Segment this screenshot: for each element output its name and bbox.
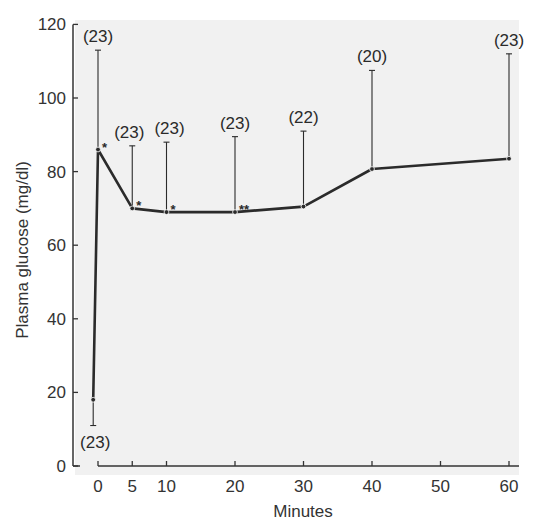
- data-point: [507, 156, 512, 161]
- y-tick-label: 80: [47, 163, 66, 182]
- sample-size-label: (23): [494, 31, 524, 50]
- data-point: [164, 210, 169, 215]
- x-tick-label: 40: [363, 477, 382, 496]
- sample-size-label: (23): [220, 114, 250, 133]
- sample-size-label: (23): [114, 123, 144, 142]
- sample-size-label: (20): [357, 47, 387, 66]
- sample-size-label: (23): [83, 27, 113, 46]
- x-tick-label: 10: [157, 477, 176, 496]
- data-point: [301, 204, 306, 209]
- data-point: [370, 167, 375, 172]
- data-point: [91, 397, 96, 402]
- data-point: [96, 147, 101, 152]
- x-tick-label: 0: [93, 477, 102, 496]
- x-tick-label: 5: [128, 477, 137, 496]
- y-tick-label: 60: [47, 236, 66, 255]
- y-tick-label: 120: [38, 15, 66, 34]
- x-axis-title: Minutes: [273, 502, 333, 521]
- x-tick-label: 50: [431, 477, 450, 496]
- x-axis: 05102030405060: [73, 461, 519, 496]
- y-axis: 020406080100120: [38, 15, 78, 476]
- sample-size-label: (22): [288, 108, 318, 127]
- y-tick-label: 40: [47, 310, 66, 329]
- y-tick-label: 20: [47, 383, 66, 402]
- sample-size-label: (23): [80, 433, 110, 452]
- y-tick-label: 100: [38, 89, 66, 108]
- y-axis-title: Plasma glucose (mg/dl): [13, 161, 32, 339]
- data-point: [130, 206, 135, 211]
- x-tick-label: 60: [500, 477, 519, 496]
- x-tick-label: 30: [294, 477, 313, 496]
- plot-background: [75, 20, 519, 475]
- x-tick-label: 20: [226, 477, 245, 496]
- glucose-chart: 020406080100120 05102030405060 (23)(23)*…: [0, 0, 537, 532]
- sample-size-label: (23): [154, 119, 184, 138]
- significance-marker: **: [239, 202, 250, 217]
- y-tick-label: 0: [57, 457, 66, 476]
- data-point: [233, 210, 238, 215]
